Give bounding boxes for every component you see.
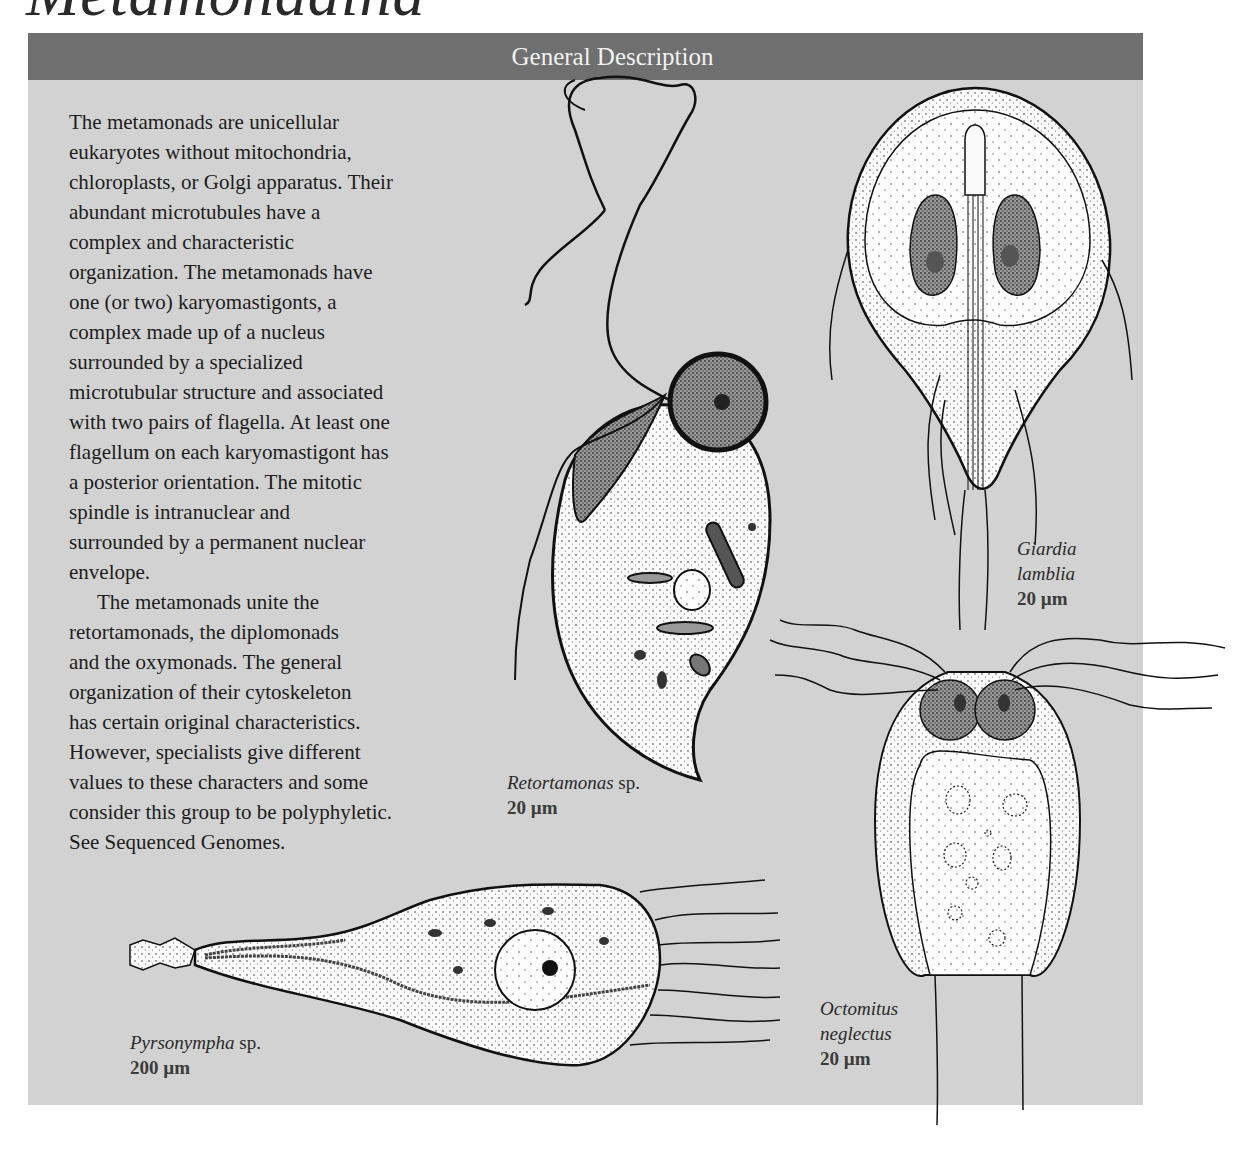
retortamonas-illustration [515,77,770,780]
species-epithet: neglectus [820,1021,898,1046]
caption-octomitus: Octomitus neglectus 20 µm [820,996,898,1071]
species-name: Pyrsonympha [130,1032,234,1053]
species-genus: Octomitus [820,996,898,1021]
scale-label: 20 µm [1017,586,1076,611]
species-genus: Giardia [1017,536,1076,561]
caption-retortamonas: Retortamonas sp. 20 µm [507,770,640,820]
scale-label: 20 µm [820,1046,898,1071]
caption-pyrsonympha: Pyrsonympha sp. 200 µm [130,1030,261,1080]
species-suffix: sp. [234,1032,260,1053]
scale-label: 200 µm [130,1055,261,1080]
species-suffix: sp. [614,772,640,793]
species-name: Retortamonas [507,772,614,793]
caption-giardia: Giardia lamblia 20 µm [1017,536,1076,611]
species-epithet: lamblia [1017,561,1076,586]
scale-label: 20 µm [507,795,640,820]
giardia-illustration [830,88,1132,630]
